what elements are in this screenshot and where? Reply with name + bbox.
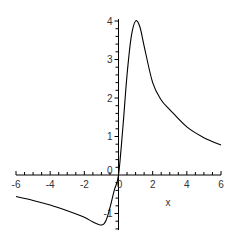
x-tick-label: 6: [218, 179, 224, 190]
origin-label: 0: [107, 165, 113, 176]
y-tick-label: 2: [107, 93, 113, 104]
x-tick-label: -4: [46, 179, 55, 190]
y-tick-label: 4: [107, 16, 113, 27]
y-tick-label: 1: [107, 131, 113, 142]
x-tick-label: -2: [80, 179, 89, 190]
chart: -6-4-224600-11234 x: [0, 0, 236, 247]
x-tick-label: -6: [12, 179, 21, 190]
x-tick-label: 4: [184, 179, 190, 190]
x-tick-label: 2: [150, 179, 156, 190]
x-axis-label: x: [166, 197, 171, 208]
y-tick-label: 3: [107, 54, 113, 65]
tick-labels: -6-4-224600-11234: [12, 16, 225, 220]
